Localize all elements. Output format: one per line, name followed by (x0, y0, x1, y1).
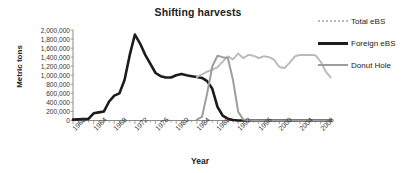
data-series-group (73, 35, 331, 121)
legend-line-icon-donut-hole (318, 61, 348, 69)
chart-container: Shifting harvests Metric tons Year 2,000… (0, 0, 412, 173)
series-line (197, 56, 331, 121)
legend-label-donut-hole: Donut Hole (351, 61, 391, 70)
legend-line-icon-foreign-ebs (318, 39, 348, 47)
legend-label-total-ebs: Total eBS (351, 17, 385, 26)
legend-item-total-ebs[interactable]: Total eBS (318, 10, 412, 32)
legend-item-donut-hole[interactable]: Donut Hole (318, 54, 412, 76)
legend-item-foreign-ebs[interactable]: Foreign eBS (318, 32, 412, 54)
legend-line-icon-total-ebs (318, 17, 348, 25)
series-line (73, 35, 331, 121)
legend-label-foreign-ebs: Foreign eBS (351, 39, 395, 48)
chart-legend: Total eBS Foreign eBS Donut Hole (318, 10, 412, 76)
